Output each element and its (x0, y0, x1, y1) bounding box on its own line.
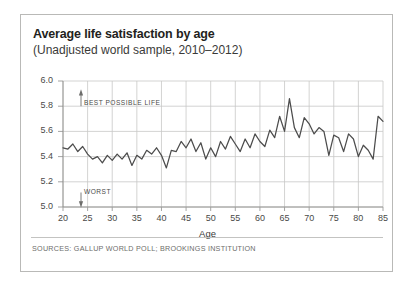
y-axis-label: 5.2 (31, 176, 53, 186)
x-axis-label: 80 (348, 213, 368, 223)
annotation-best-possible-life: BEST POSSIBLE LIFE (84, 99, 160, 106)
x-axis-label: 85 (373, 213, 393, 223)
x-axis-label: 30 (102, 213, 122, 223)
annotation-worst: WORST (84, 188, 111, 195)
y-axis-label: 5.8 (31, 100, 53, 110)
x-axis-label: 35 (127, 213, 147, 223)
x-axis-label: 55 (225, 213, 245, 223)
x-axis-label: 25 (78, 213, 98, 223)
y-axis-label: 6.0 (31, 75, 53, 85)
x-axis-label: 40 (151, 213, 171, 223)
arrow-up-head-icon (79, 89, 83, 95)
x-axis-label: 50 (201, 213, 221, 223)
y-axis-label: 5.6 (31, 125, 53, 135)
source-divider (31, 237, 383, 238)
data-line-life-satisfaction (63, 99, 383, 168)
x-axis-label: 45 (176, 213, 196, 223)
x-axis-label: 65 (275, 213, 295, 223)
x-axis-label: 75 (324, 213, 344, 223)
y-axis-label: 5.4 (31, 151, 53, 161)
x-axis-label: 70 (299, 213, 319, 223)
source-note: SOURCES: GALLUP WORLD POLL; BROOKINGS IN… (32, 244, 256, 253)
x-axis-label: 20 (53, 213, 73, 223)
y-axis-label: 5.0 (31, 201, 53, 211)
chart-figure: Average life satisfaction by age (Unadju… (20, 14, 393, 272)
x-axis-label: 60 (250, 213, 270, 223)
